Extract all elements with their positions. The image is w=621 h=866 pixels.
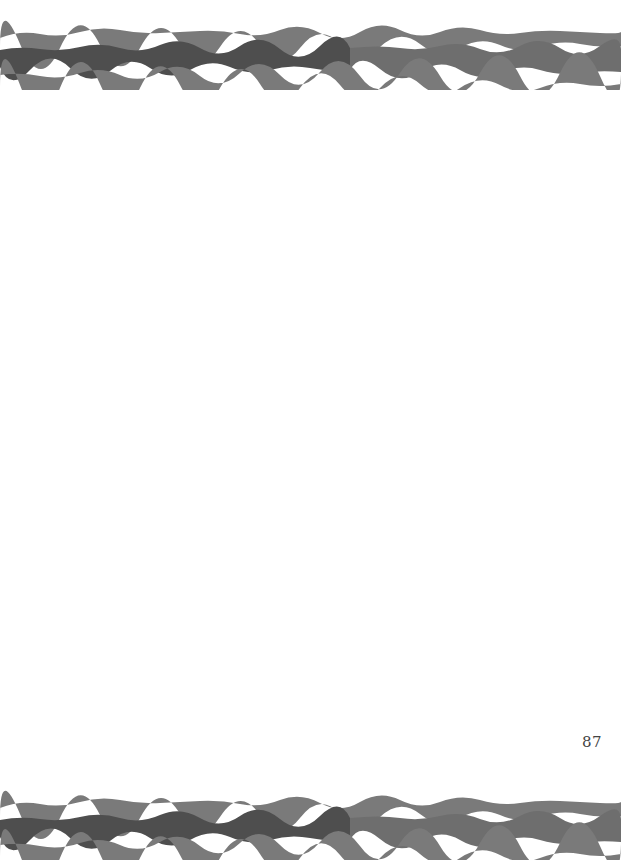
bottom-decorative-border xyxy=(0,790,621,860)
wavy-stripes-icon xyxy=(0,790,621,860)
page-number: 87 xyxy=(582,733,602,751)
page-content-area xyxy=(40,110,581,710)
top-decorative-border xyxy=(0,20,621,90)
wavy-stripes-icon xyxy=(0,20,621,90)
